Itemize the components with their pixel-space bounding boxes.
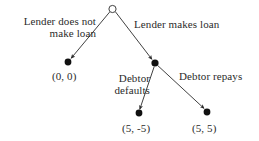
terminal-node-no-loan <box>65 59 72 66</box>
edge-label-lender-does-not-make-loan: Lender does not make loan <box>10 16 96 39</box>
terminal-node-repay <box>204 109 211 116</box>
root-node <box>109 5 116 12</box>
edge-label-debtor-repays: Debtor repays <box>179 71 242 83</box>
payoff-no-loan: (0, 0) <box>52 70 76 82</box>
edge-label-debtor-defaults: Debtor defaults <box>98 73 150 96</box>
debtor-decision-node <box>151 59 158 66</box>
payoff-default: (5, -5) <box>122 122 150 134</box>
terminal-node-default <box>136 110 143 117</box>
edge-label-lender-makes-loan: Lender makes loan <box>134 19 219 31</box>
game-tree-diagram: Lender does not make loan Lender makes l… <box>0 0 259 141</box>
payoff-repay: (5, 5) <box>192 122 216 134</box>
